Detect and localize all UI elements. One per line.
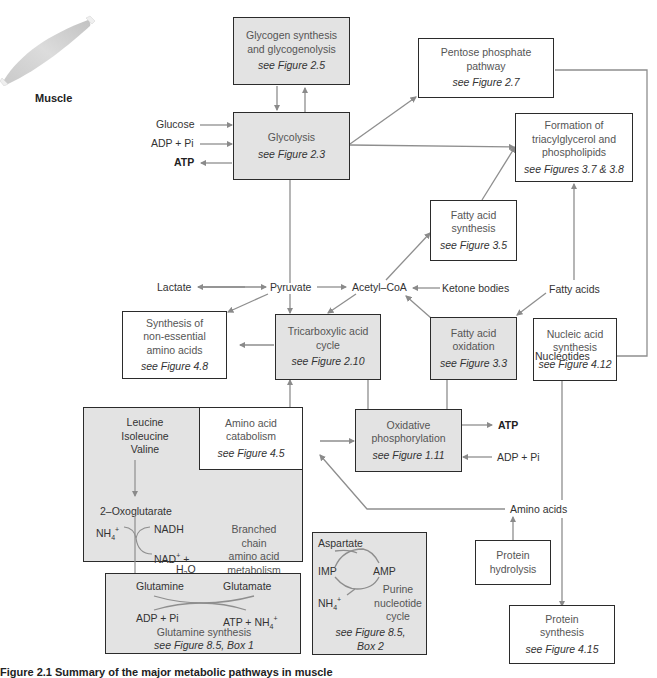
atp-output-label: ATP: [498, 419, 518, 431]
figure-reference: see Figure 2.5: [258, 59, 325, 73]
box-title: synthesis: [540, 626, 584, 640]
box-title: Fatty acid: [451, 327, 497, 341]
box-title: Glycogen synthesis: [246, 29, 337, 43]
figure-reference: see Figure 8.5, Box 1: [106, 639, 302, 653]
box-title: Purine nucleotide cycle: [368, 583, 428, 624]
figure-reference: see Figures 3.7 & 3.8: [524, 163, 624, 177]
atp-label: ATP: [174, 156, 194, 168]
figure-reference: see Figure 3.5: [440, 239, 507, 253]
pyruvate-label: Pyruvate: [270, 281, 311, 293]
oxidative-phosphorylation-box: Oxidative phosphorylation see Figure 1.1…: [355, 409, 462, 472]
box-title: Tricarboxylic acid: [288, 325, 369, 339]
box-title: catabolism: [226, 430, 276, 444]
box-title: pathway: [466, 60, 505, 74]
glutamine-synthesis-box: Glutamine Glutamate ADP + Pi ATP + NH4+ …: [105, 573, 301, 654]
box-title: Fatty acid: [451, 209, 497, 223]
box-title: Oxidative: [387, 419, 431, 433]
box-title: Protein: [545, 613, 578, 627]
lactate-label: Lactate: [157, 281, 191, 293]
box-title: non-essential: [143, 330, 205, 344]
box-title: Purine: [368, 583, 428, 597]
box-title: Pentose phosphate: [441, 46, 532, 60]
figure-reference: see Figure 8.5, Box 2: [313, 626, 428, 653]
figure-reference: see Figure 2.3: [258, 148, 325, 162]
box-title: Nucleic acid: [547, 328, 604, 342]
figure-reference: see Figure 8.5,: [313, 626, 428, 640]
adp-pi-label: ADP + Pi: [151, 137, 194, 149]
box-title: Synthesis of: [146, 317, 203, 331]
box-title: Protein: [496, 549, 529, 563]
adp-pi-label: ADP + Pi: [136, 612, 179, 626]
box-title: Glycolysis: [268, 131, 315, 145]
purine-nucleotide-cycle-box: Aspartate IMP AMP NH4+ Purine nucleotide…: [312, 532, 427, 655]
box-title: cycle: [316, 339, 340, 353]
figure-reference: see Figure 2.10: [292, 355, 365, 369]
glucose-label: Glucose: [156, 118, 195, 130]
box-title: nucleotide: [368, 597, 428, 611]
figure-reference: Box 2: [313, 640, 428, 654]
box-title: and glycogenolysis: [247, 43, 336, 57]
box-title: phosphorylation: [371, 432, 445, 446]
box-title: synthesis: [452, 222, 496, 236]
figure-reference: see Figure 4.8: [141, 360, 208, 374]
nonessential-amino-acids-box: Synthesis of non-essential amino acids s…: [122, 311, 227, 379]
box-title: phospholipids: [542, 146, 606, 160]
figure-caption: Figure 2.1 Summary of the major metaboli…: [0, 666, 333, 678]
figure-reference: see Figure 2.7: [452, 76, 519, 90]
amino-acids-label: Amino acids: [510, 503, 567, 515]
tag-formation-box: Formation of triacylglycerol and phospho…: [515, 113, 633, 182]
adp-pi-input-label: ADP + Pi: [497, 451, 540, 463]
box-title: cycle: [368, 610, 428, 624]
figure-reference: see Figure 4.15: [526, 643, 599, 657]
box-title: oxidation: [452, 340, 494, 354]
figure-reference: see Figure 3.3: [440, 357, 507, 371]
ketone-bodies-label: Ketone bodies: [442, 282, 509, 294]
acetyl-coa-label: Acetyl–CoA: [352, 281, 407, 293]
box-title: Amino acid: [225, 417, 277, 431]
box-title: Formation of: [545, 119, 604, 133]
protein-hydrolysis-box: Protein hydrolysis: [475, 540, 551, 585]
tca-cycle-box: Tricarboxylic acid cycle see Figure 2.10: [275, 314, 381, 380]
pentose-phosphate-box: Pentose phosphate pathway see Figure 2.7: [418, 38, 554, 98]
glycogen-metabolism-box: Glycogen synthesis and glycogenolysis se…: [233, 17, 350, 85]
figure-reference: see Figure 1.11: [372, 449, 444, 463]
box-title: amino acids: [146, 344, 202, 358]
box-title: Glutamine synthesis: [106, 626, 302, 640]
glycolysis-box: Glycolysis see Figure 2.3: [233, 112, 350, 180]
box-title: triacylglycerol and: [532, 133, 616, 147]
fatty-acid-synthesis-box: Fatty acid synthesis see Figure 3.5: [430, 200, 517, 261]
glutamine-reaction-arrows: [106, 574, 302, 614]
fatty-acid-oxidation-box: Fatty acid oxidation see Figure 3.3: [430, 317, 517, 380]
nucleotides-label: Nucleotides: [535, 350, 590, 362]
box-title: hydrolysis: [490, 563, 537, 577]
protein-synthesis-box: Protein synthesis see Figure 4.15: [509, 605, 615, 664]
fatty-acids-label: Fatty acids: [549, 283, 600, 295]
amino-acid-catabolism-box: Amino acid catabolism see Figure 4.5: [199, 407, 303, 470]
figure-reference: see Figure 4.5: [217, 447, 284, 461]
